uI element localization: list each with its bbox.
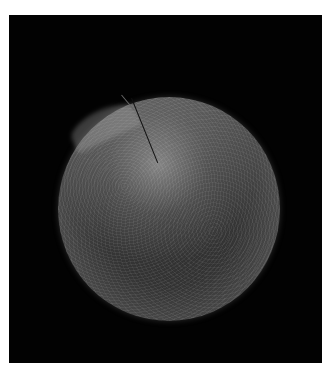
micrograph-frame [9, 15, 322, 363]
